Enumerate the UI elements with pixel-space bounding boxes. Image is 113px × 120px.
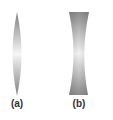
lens-b-label: (b) xyxy=(67,99,91,109)
lens-diagram: (a) (b) xyxy=(0,0,113,120)
concave-lens-shape xyxy=(69,12,89,95)
convex-lens-shape xyxy=(13,12,22,96)
lens-a-label: (a) xyxy=(5,99,29,109)
